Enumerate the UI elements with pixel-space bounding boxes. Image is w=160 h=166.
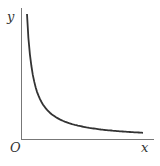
x-axis-label: x (141, 140, 149, 155)
hyperbola-chart: y x O (0, 0, 160, 166)
y-axis-label: y (6, 9, 15, 24)
curve-line (27, 14, 143, 133)
origin-label: O (10, 140, 21, 155)
